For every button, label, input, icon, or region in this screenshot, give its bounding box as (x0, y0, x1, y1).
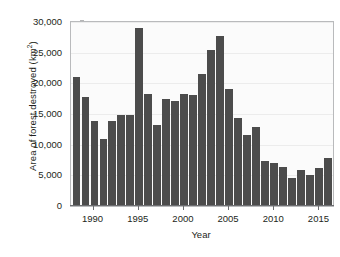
x-tick-mark (138, 205, 139, 210)
bar (108, 121, 116, 206)
x-tick-mark (93, 205, 94, 210)
bar-series (71, 22, 333, 206)
bar (261, 161, 269, 206)
y-tick-label: 10,000 (33, 138, 62, 149)
bar (180, 94, 188, 206)
bar (324, 158, 332, 206)
plot-inner (71, 22, 333, 206)
bar (288, 178, 296, 206)
x-tick-label: 2010 (263, 213, 284, 224)
bar (297, 170, 305, 206)
x-tick-mark (228, 205, 229, 210)
bar (279, 167, 287, 206)
bar (135, 28, 143, 206)
x-tick-label: 1995 (127, 213, 148, 224)
bar (162, 99, 170, 206)
bar (216, 36, 224, 206)
y-tick-label: 25,000 (33, 46, 62, 57)
bar (144, 94, 152, 206)
y-tick-label: 20,000 (33, 77, 62, 88)
bar (189, 95, 197, 206)
bar (270, 163, 278, 206)
bar-chart-figure: Area of forest destroyed (km2) 05,00010,… (0, 0, 340, 257)
bar (73, 77, 81, 206)
y-tick-label: 5,000 (38, 169, 62, 180)
x-tick-label: 2000 (172, 213, 193, 224)
x-tick-label: 2005 (218, 213, 239, 224)
x-tick-label: 1990 (82, 213, 103, 224)
bar (315, 168, 323, 206)
x-axis-title: Year (70, 229, 332, 240)
x-tick-mark (273, 205, 274, 210)
y-axis-tick-labels: 05,00010,00015,00020,00025,00030,000 (14, 0, 62, 257)
bar (171, 101, 179, 206)
bar (225, 89, 233, 206)
bar (126, 115, 134, 206)
bar (198, 74, 206, 206)
x-tick-mark (183, 205, 184, 210)
x-tick-mark (318, 205, 319, 210)
x-tick-label: 2015 (308, 213, 329, 224)
bar (100, 139, 108, 206)
bar (243, 135, 251, 206)
plot-area (70, 21, 334, 207)
bar (117, 115, 125, 206)
bar (252, 127, 260, 206)
y-tick-label: 30,000 (33, 16, 62, 27)
y-tick-label: 0 (57, 200, 62, 211)
bar (234, 118, 242, 206)
bar (207, 50, 215, 206)
bar (91, 121, 99, 206)
bar (153, 125, 161, 206)
bar (82, 97, 90, 206)
bar (306, 175, 314, 206)
y-tick-label: 15,000 (33, 108, 62, 119)
